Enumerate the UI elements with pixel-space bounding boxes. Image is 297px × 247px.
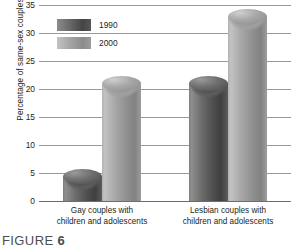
category-labels: Gay couples withchildren and adolescents… [39,205,291,227]
chart-legend: 1990 2000 [57,17,118,53]
legend-item-1990: 1990 [57,17,118,32]
y-tick-label-30: 30 [26,28,35,38]
gridline-0: 0 [39,201,291,202]
bar-body [228,16,267,201]
category-label-line: Gay couples with [39,205,165,216]
bar-top-ellipse [63,169,102,184]
category-label-line: children and adolescents [165,216,291,227]
y-tick-label-10: 10 [26,140,35,150]
figure-caption: FIGURE6 [2,233,65,247]
y-tick-label-0: 0 [30,196,35,206]
category-label-1: Gay couples withchildren and adolescents [39,205,165,227]
category-label-line: Lesbian couples with [165,205,291,216]
bar-body [189,83,228,201]
legend-label-1990: 1990 [99,20,118,30]
bar-2000-group1 [102,83,141,201]
y-tick-label-25: 25 [26,56,35,66]
y-tick-label-15: 15 [26,112,35,122]
bar-1990-group2 [189,83,228,201]
legend-label-2000: 2000 [99,38,118,48]
bar-1990-group1 [63,176,102,201]
category-label-line: children and adolescents [39,216,165,227]
y-tick-label-5: 5 [30,168,35,178]
y-axis-title: Percentage of same-sex couples [16,0,25,150]
y-tick-label-20: 20 [26,84,35,94]
legend-swatch-1990-icon [57,19,91,31]
figure-root: Percentage of same-sex couples 051015202… [0,0,297,247]
figure-caption-word: FIGURE [2,233,54,247]
figure-caption-number: 6 [58,233,65,247]
category-label-2: Lesbian couples withchildren and adolesc… [165,205,291,227]
legend-item-2000: 2000 [57,35,118,50]
y-tick-label-35: 35 [26,0,35,10]
bar-body [102,83,141,201]
legend-swatch-2000-icon [57,37,91,49]
bar-2000-group2 [228,16,267,201]
